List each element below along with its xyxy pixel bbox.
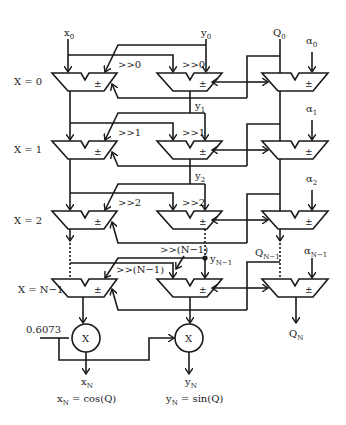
svg-text:±: ± bbox=[199, 217, 207, 227]
input-y0-label: y0 bbox=[200, 27, 211, 41]
adder-x-1 bbox=[52, 141, 117, 159]
svg-text:±: ± bbox=[305, 285, 313, 295]
svg-text:QN: QN bbox=[289, 328, 303, 342]
output-scaling: 0.6073 X X xN yN xN = cos(Q) yN = sin(Q) bbox=[26, 324, 223, 407]
adder-q-n-1 bbox=[262, 279, 328, 297]
output-yn: yN bbox=[184, 376, 197, 390]
adder-q-0 bbox=[262, 73, 328, 91]
svg-text:X: X bbox=[185, 333, 193, 344]
adder-x-0 bbox=[52, 73, 117, 91]
svg-text:±: ± bbox=[199, 285, 207, 295]
adder-q-2 bbox=[262, 211, 328, 229]
svg-text:>>1: >>1 bbox=[118, 127, 141, 138]
yn-equation: yN = sin(Q) bbox=[165, 393, 223, 407]
svg-text:±: ± bbox=[305, 147, 313, 157]
svg-text:±: ± bbox=[199, 147, 207, 157]
svg-text:α1: α1 bbox=[306, 103, 317, 117]
output-xn: xN bbox=[81, 376, 93, 390]
svg-text:>>(N−1): >>(N−1) bbox=[160, 244, 208, 255]
stage-2-label: X = 2 bbox=[14, 215, 42, 226]
svg-text:±: ± bbox=[199, 79, 207, 89]
stage-n-1-label: X = N−1 bbox=[18, 284, 63, 295]
svg-text:±: ± bbox=[94, 147, 102, 157]
stage-1: ± ± ± X = 1 >>1 >>1 α1 y2 bbox=[14, 103, 328, 211]
cordic-diagram: x0 y0 Q0 ± ± ± X = 0 >>0 >>0 α0 y1 bbox=[0, 0, 346, 425]
svg-text:yN−1: yN−1 bbox=[209, 253, 232, 267]
svg-text:±: ± bbox=[305, 79, 313, 89]
stage-n-minus-1: yN−1 >>(N−1) ± ± ± X = N−1 >>(N−1) QN−1 … bbox=[18, 244, 328, 342]
stage-0-shift-x: >>0 bbox=[118, 59, 141, 70]
svg-text:±: ± bbox=[94, 217, 102, 227]
input-x0-label: x0 bbox=[64, 27, 74, 41]
gain-constant: 0.6073 bbox=[26, 324, 61, 335]
svg-text:>>2: >>2 bbox=[182, 197, 205, 208]
svg-text:y1: y1 bbox=[194, 100, 205, 114]
svg-text:α0: α0 bbox=[306, 35, 317, 49]
adder-q-1 bbox=[262, 141, 328, 159]
svg-text:X: X bbox=[82, 333, 90, 344]
stage-1-label: X = 1 bbox=[14, 144, 42, 155]
input-q0-label: Q0 bbox=[273, 27, 286, 41]
stage-0-label: X = 0 bbox=[14, 76, 42, 87]
svg-text:QN−1: QN−1 bbox=[255, 247, 280, 261]
svg-text:>>2: >>2 bbox=[118, 197, 141, 208]
stage-0-shift-y: >>0 bbox=[182, 59, 205, 70]
svg-text:αN−1: αN−1 bbox=[304, 245, 327, 259]
svg-text:±: ± bbox=[305, 217, 313, 227]
adder-x-2 bbox=[52, 211, 117, 229]
stage-0: ± ± ± X = 0 >>0 >>0 α0 y1 bbox=[14, 35, 328, 141]
svg-text:α2: α2 bbox=[306, 173, 317, 187]
svg-text:>>(N−1): >>(N−1) bbox=[116, 264, 164, 275]
svg-text:>>1: >>1 bbox=[182, 127, 205, 138]
xn-equation: xN = cos(Q) bbox=[57, 393, 116, 407]
svg-text:±: ± bbox=[94, 79, 102, 89]
svg-text:±: ± bbox=[94, 285, 102, 295]
svg-text:y2: y2 bbox=[194, 170, 205, 184]
